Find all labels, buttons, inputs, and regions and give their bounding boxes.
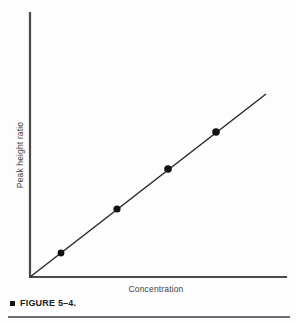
figure-caption: FIGURE 5–4. <box>10 298 76 308</box>
y-axis-label: Peak height ratio <box>15 122 25 188</box>
data-point <box>164 165 172 173</box>
data-point <box>212 128 220 136</box>
x-axis-label: Concentration <box>0 284 296 294</box>
square-bullet-icon <box>10 301 15 306</box>
data-point <box>58 250 65 257</box>
trend-line <box>30 94 266 277</box>
figure-container: Peak height ratio Concentration FIGURE 5… <box>0 0 296 324</box>
figure-caption-text: FIGURE 5–4. <box>20 298 76 308</box>
horizontal-rule <box>8 316 290 318</box>
data-point <box>113 205 120 212</box>
calibration-curve-chart <box>0 0 296 300</box>
